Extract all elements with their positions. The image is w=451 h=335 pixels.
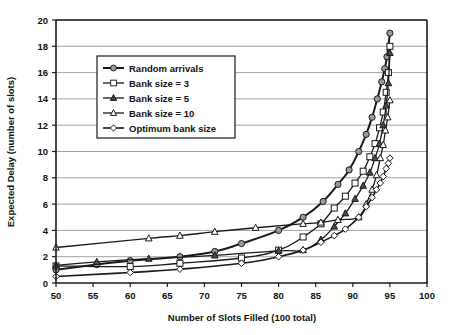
data-point-marker: [377, 180, 384, 187]
data-point-marker: [377, 154, 384, 160]
y-tick-label: 4: [43, 225, 49, 236]
y-tick-label: 0: [43, 278, 48, 289]
data-point-marker: [275, 253, 282, 260]
data-point-marker: [367, 169, 374, 175]
data-point-marker: [111, 80, 117, 86]
x-tick-label: 55: [88, 290, 99, 301]
data-point-marker: [276, 227, 282, 233]
legend-label: Bank size = 10: [129, 108, 194, 119]
data-point-marker: [352, 180, 358, 186]
legend-label: Bank size = 3: [129, 78, 189, 89]
data-point-marker: [373, 172, 380, 178]
data-point-marker: [385, 80, 392, 86]
chart-container: 0246810121416182050556065707580859095100…: [0, 0, 451, 335]
legend-label: Bank size = 5: [129, 93, 190, 104]
data-point-marker: [127, 258, 133, 264]
x-axis-title: Number of Slots Filled (100 total): [168, 312, 316, 323]
data-point-marker: [335, 181, 341, 187]
y-tick-label: 20: [37, 15, 48, 26]
data-point-marker: [111, 65, 117, 71]
y-tick-label: 16: [37, 67, 48, 78]
data-point-marker: [320, 198, 326, 204]
y-tick-label: 14: [37, 93, 48, 104]
chart-legend: Random arrivalsBank size = 3Bank size = …: [97, 56, 235, 138]
y-axis-title: Expected Delay (number of slots): [5, 77, 16, 227]
y-tick-label: 6: [43, 199, 48, 210]
data-point-marker: [300, 234, 306, 240]
y-tick-label: 12: [37, 120, 48, 131]
x-tick-label: 60: [125, 290, 136, 301]
data-point-marker: [331, 232, 338, 239]
data-point-marker: [369, 114, 375, 120]
data-point-marker: [331, 205, 337, 211]
data-point-marker: [374, 96, 380, 102]
x-tick-label: 95: [385, 290, 396, 301]
data-point-marker: [360, 168, 366, 174]
x-tick-label: 50: [51, 290, 62, 301]
data-point-marker: [177, 266, 184, 273]
x-tick-label: 75: [236, 290, 247, 301]
data-point-marker: [356, 148, 362, 154]
y-tick-label: 8: [43, 172, 48, 183]
data-point-marker: [127, 269, 134, 276]
data-point-marker: [379, 79, 385, 85]
x-tick-label: 80: [273, 290, 284, 301]
y-tick-label: 2: [43, 251, 48, 262]
data-point-marker: [367, 154, 373, 160]
x-tick-label: 90: [348, 290, 359, 301]
data-point-marker: [238, 240, 244, 246]
x-tick-label: 100: [419, 290, 435, 301]
data-point-marker: [342, 193, 348, 199]
legend-label: Optimum bank size: [129, 123, 216, 134]
data-point-marker: [380, 173, 387, 180]
x-tick-label: 70: [199, 290, 210, 301]
x-tick-label: 85: [310, 290, 321, 301]
data-point-marker: [387, 30, 393, 36]
y-tick-label: 18: [37, 41, 48, 52]
x-tick-label: 65: [162, 290, 173, 301]
legend-label: Random arrivals: [129, 63, 203, 74]
y-tick-label: 10: [37, 146, 48, 157]
series-line: [56, 158, 390, 276]
chart-plot: 0246810121416182050556065707580859095100…: [0, 0, 451, 335]
data-point-marker: [363, 131, 369, 137]
data-point-marker: [360, 182, 367, 188]
data-point-marker: [346, 167, 352, 173]
